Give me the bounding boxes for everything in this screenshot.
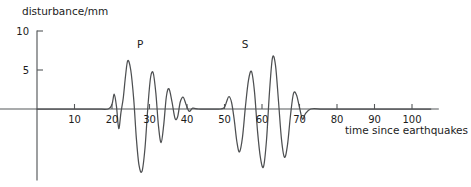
tick-labels-group: 510102030405060708090100	[16, 26, 421, 126]
y-tick-label: 10	[16, 26, 29, 37]
ticks-group	[37, 31, 412, 109]
x-tick-label: 10	[68, 114, 81, 125]
phase-label-s: S	[242, 38, 249, 50]
axes-group	[0, 31, 438, 180]
x-axis-label: time since earthquakes	[345, 124, 468, 136]
x-tick-label: 70	[293, 114, 306, 125]
y-axis-label: disturbance/mm	[22, 5, 108, 17]
phase-annotations-group: PS	[137, 38, 249, 50]
seismogram-figure: 510102030405060708090100 PS disturbance/…	[0, 0, 471, 187]
x-tick-label: 30	[143, 114, 156, 125]
phase-label-p: P	[137, 38, 143, 50]
x-tick-label: 20	[106, 114, 119, 125]
x-tick-label: 60	[256, 114, 269, 125]
chart-canvas: 510102030405060708090100 PS disturbance/…	[0, 0, 471, 187]
x-tick-label: 80	[331, 114, 344, 125]
x-tick-label: 40	[181, 114, 194, 125]
y-tick-label: 5	[23, 65, 29, 76]
x-tick-label: 50	[218, 114, 231, 125]
